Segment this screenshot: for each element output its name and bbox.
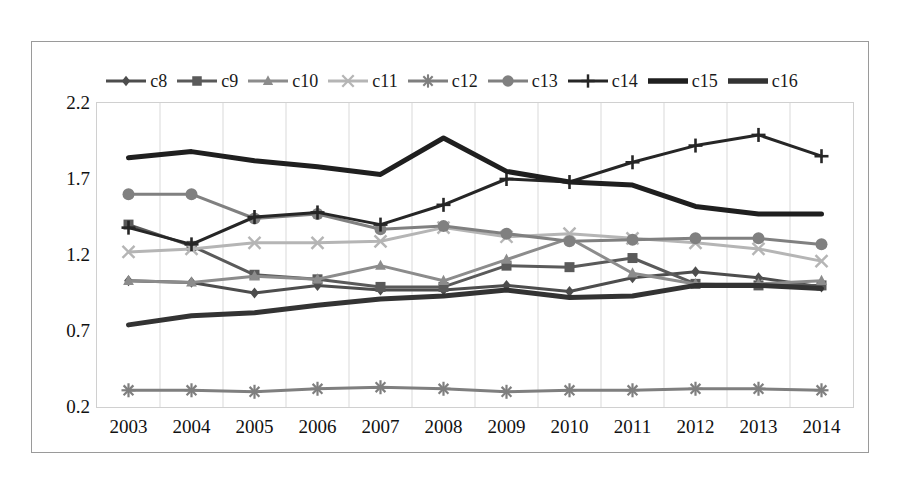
series-canvas	[97, 103, 853, 407]
legend-label: c9	[221, 71, 238, 92]
y-tick-label: 1.7	[66, 168, 90, 190]
plot-area-wrapper: 0.20.71.21.72.2 200320042005200620072008…	[32, 102, 870, 452]
x-tick-label: 2009	[488, 416, 526, 438]
circle-marker-icon	[486, 72, 530, 90]
legend-label: c14	[612, 71, 638, 92]
legend-item-c13[interactable]: c13	[486, 71, 558, 92]
legend-label: c13	[532, 71, 558, 92]
legend-item-c16[interactable]: c16	[726, 71, 798, 92]
y-tick-label: 0.2	[66, 396, 90, 418]
x-tick-label: 2003	[110, 416, 148, 438]
x-tick-label: 2014	[803, 416, 841, 438]
legend-label: c8	[150, 71, 167, 92]
x-tick-label: 2007	[362, 416, 400, 438]
legend-item-c14[interactable]: c14	[566, 71, 638, 92]
x-tick-label: 2004	[173, 416, 211, 438]
legend-label: c10	[292, 71, 318, 92]
x-tick-label: 2013	[740, 416, 778, 438]
legend-label: c12	[452, 71, 478, 92]
chart-legend: c8c9c10c11c12c13c14c15c16	[32, 66, 870, 96]
x-tick-label: 2012	[677, 416, 715, 438]
y-axis-tick-labels: 0.20.71.21.72.2	[32, 102, 96, 422]
legend-item-c11[interactable]: c11	[326, 71, 397, 92]
y-tick-label: 0.7	[66, 320, 90, 342]
y-tick-label: 1.2	[66, 244, 90, 266]
triangle-marker-icon	[246, 72, 290, 90]
asterisk-marker-icon	[406, 72, 450, 90]
legend-item-c10[interactable]: c10	[246, 71, 318, 92]
x-tick-label: 2010	[551, 416, 589, 438]
legend-item-c8[interactable]: c8	[104, 71, 167, 92]
legend-item-c12[interactable]: c12	[406, 71, 478, 92]
square-marker-icon	[175, 72, 219, 90]
x-axis-tick-labels: 2003200420052006200720082009201020112012…	[96, 414, 854, 448]
line-marker-icon	[646, 72, 690, 90]
x-marker-icon	[326, 72, 370, 90]
diamond-marker-icon	[104, 72, 148, 90]
chart-screenshot: c8c9c10c11c12c13c14c15c16 0.20.71.21.72.…	[0, 0, 901, 491]
x-tick-label: 2011	[614, 416, 651, 438]
line-marker-icon	[726, 72, 770, 90]
legend-item-c9[interactable]: c9	[175, 71, 238, 92]
legend-label: c16	[772, 71, 798, 92]
legend-label: c15	[692, 71, 718, 92]
x-tick-label: 2006	[299, 416, 337, 438]
x-tick-label: 2005	[236, 416, 274, 438]
plus-marker-icon	[566, 72, 610, 90]
x-tick-label: 2008	[425, 416, 463, 438]
legend-label: c11	[372, 71, 397, 92]
y-tick-label: 2.2	[66, 92, 90, 114]
plot-area	[96, 102, 854, 408]
chart-container: c8c9c10c11c12c13c14c15c16 0.20.71.21.72.…	[31, 41, 869, 453]
legend-item-c15[interactable]: c15	[646, 71, 718, 92]
